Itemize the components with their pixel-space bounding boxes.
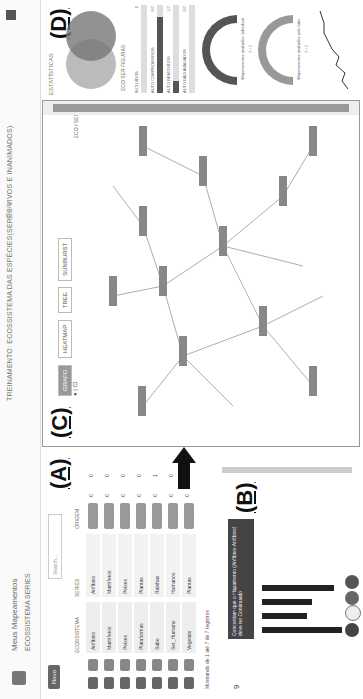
line-chart bbox=[314, 5, 354, 93]
dislike-count[interactable]: 0 bbox=[168, 474, 174, 477]
edit-button[interactable] bbox=[136, 659, 146, 671]
progress-label: INCLUÍDOS bbox=[134, 71, 139, 93]
table-row[interactable]: PlataformasPlantas00 bbox=[134, 459, 148, 689]
col-origem[interactable]: ORIGEM bbox=[74, 509, 80, 529]
edit-button[interactable] bbox=[104, 659, 114, 671]
table-row[interactable]: AnfíbiosAnfíbios00 bbox=[86, 459, 100, 689]
tab-sunburst[interactable]: SUNBURST bbox=[58, 238, 72, 281]
dislike-count[interactable]: 1 bbox=[152, 474, 158, 477]
table-row[interactable]: SabeRainhas01 bbox=[150, 459, 164, 689]
venn-legend: ECO SER FIGURAS bbox=[120, 45, 126, 91]
like-count[interactable]: 0 bbox=[104, 494, 110, 497]
venn-ser[interactable] bbox=[66, 11, 116, 61]
panel-c-graph: (C) GRAFO HEATMAP TREE SUNBURST ● | ⊡ EC… bbox=[42, 100, 360, 447]
tab-series[interactable]: SERIES bbox=[24, 573, 31, 599]
app-logo-icon bbox=[12, 671, 26, 685]
col-ecossistema[interactable]: ECOSSISTEMA bbox=[74, 617, 80, 653]
progress-bar bbox=[173, 5, 179, 93]
progress-label: AUTO NÃO AVALIADOS bbox=[182, 49, 187, 93]
dislike-count[interactable]: 0 bbox=[136, 474, 142, 477]
delete-button[interactable] bbox=[104, 677, 114, 689]
notification-icon[interactable] bbox=[6, 10, 16, 20]
zoom-controls[interactable]: ● | ⊡ bbox=[71, 382, 78, 396]
delete-button[interactable] bbox=[136, 677, 146, 689]
gauge-tutor bbox=[258, 15, 293, 85]
bar-2[interactable] bbox=[262, 613, 307, 619]
delete-button[interactable] bbox=[120, 677, 130, 689]
dislike-count[interactable]: 0 bbox=[104, 474, 110, 477]
tab-tree[interactable]: TREE bbox=[58, 287, 72, 313]
panel-d-stats: (D) ESTATÍSTICAS ECO SER FIGURAS INCLUÍD… bbox=[42, 0, 358, 99]
origin-button[interactable] bbox=[152, 503, 162, 529]
table-row[interactable]: PeixesPeixes00 bbox=[118, 459, 132, 689]
avatar-4 bbox=[345, 575, 359, 589]
like-count[interactable]: 0 bbox=[152, 494, 158, 497]
origin-button[interactable] bbox=[184, 503, 194, 529]
cell-serie: Anfíbios bbox=[86, 534, 100, 597]
cell-eco: Mamíferos bbox=[102, 602, 116, 653]
gauge-individual bbox=[202, 15, 237, 85]
progress-label: AUTO COMPROMISSOS bbox=[150, 47, 155, 93]
tab-grafo[interactable]: GRAFO bbox=[58, 365, 72, 396]
dislike-count[interactable]: 0 bbox=[120, 474, 126, 477]
bar-1[interactable] bbox=[262, 627, 342, 633]
col-series[interactable]: SERIES bbox=[74, 579, 80, 597]
delete-button[interactable] bbox=[168, 677, 178, 689]
graph-scrollbar[interactable] bbox=[43, 101, 359, 115]
like-count[interactable]: 0 bbox=[168, 494, 174, 497]
like-count[interactable]: 0 bbox=[88, 494, 94, 497]
page-title: TREINAMENTO: ECOSSISTEMA DAS ESPÉCIES(SE… bbox=[6, 126, 13, 401]
table-row[interactable]: MamíferosMamíferos00 bbox=[102, 459, 116, 689]
legend-ser: SER bbox=[120, 68, 126, 78]
progress-value: 0 bbox=[134, 6, 139, 8]
search-input[interactable]: Search... bbox=[48, 514, 62, 579]
origin-button[interactable] bbox=[104, 503, 114, 529]
edit-button[interactable] bbox=[152, 659, 162, 671]
gauge-caption: Mapeamentos avaliados pelo tutor bbox=[296, 9, 301, 89]
dislike-count[interactable]: 0 bbox=[88, 474, 94, 477]
vote-count: 9 bbox=[232, 685, 241, 689]
origin-button[interactable] bbox=[168, 503, 178, 529]
origin-button[interactable] bbox=[136, 503, 146, 529]
progress-value: 6/7 bbox=[150, 6, 155, 12]
scroll-thumb[interactable] bbox=[53, 104, 349, 112]
like-count[interactable]: 0 bbox=[136, 494, 142, 497]
avatar-3 bbox=[345, 591, 359, 605]
cell-serie: Plantas bbox=[134, 534, 148, 597]
arrow-icon bbox=[172, 447, 196, 463]
bar-3[interactable] bbox=[262, 599, 312, 605]
edit-button[interactable] bbox=[88, 659, 98, 671]
cell-serie: Mamíferos bbox=[102, 534, 116, 597]
cell-eco: Ser_Humano bbox=[166, 602, 180, 653]
like-count[interactable]: 0 bbox=[184, 494, 190, 497]
panel-label-b: (B) bbox=[232, 482, 258, 513]
origin-button[interactable] bbox=[120, 503, 130, 529]
progress-bar bbox=[141, 5, 147, 93]
edit-button[interactable] bbox=[184, 659, 194, 671]
panel-a-table: Novo Search... (A) ECOSSISTEMA SERIES OR… bbox=[42, 449, 302, 699]
table-row[interactable]: VegetaisPlantas00 bbox=[182, 459, 196, 689]
tab-heatmap[interactable]: HEATMAP bbox=[58, 320, 72, 359]
avatar-1 bbox=[345, 623, 359, 637]
cell-serie: Rainhas bbox=[150, 534, 164, 597]
legend-eco: ECO bbox=[73, 127, 79, 138]
bar-4[interactable] bbox=[262, 585, 334, 591]
new-button[interactable]: Novo bbox=[48, 665, 60, 689]
delete-button[interactable] bbox=[152, 677, 162, 689]
legend-figuras: FIGURAS bbox=[120, 45, 126, 67]
edit-button[interactable] bbox=[168, 659, 178, 671]
cell-eco: Peixes bbox=[118, 602, 132, 653]
tab-ecossistema[interactable]: ECOSSISTEMA bbox=[24, 600, 31, 651]
like-count[interactable]: 0 bbox=[120, 494, 126, 497]
edit-button[interactable] bbox=[120, 659, 130, 671]
my-mappings-menu[interactable]: Meus Mapeamentos bbox=[10, 579, 19, 651]
table-row[interactable]: Ser_HumanoHumanos00 bbox=[166, 459, 180, 689]
scrollbar-b[interactable] bbox=[222, 467, 352, 473]
origin-button[interactable] bbox=[88, 503, 98, 529]
network-graph[interactable] bbox=[83, 116, 353, 446]
cell-serie: Peixes bbox=[118, 534, 132, 597]
delete-button[interactable] bbox=[88, 677, 98, 689]
delete-button[interactable] bbox=[184, 677, 194, 689]
gauge-caption: Mapeamentos avaliados individual bbox=[240, 9, 245, 89]
view-tabs: GRAFO HEATMAP TREE SUNBURST bbox=[53, 236, 72, 396]
